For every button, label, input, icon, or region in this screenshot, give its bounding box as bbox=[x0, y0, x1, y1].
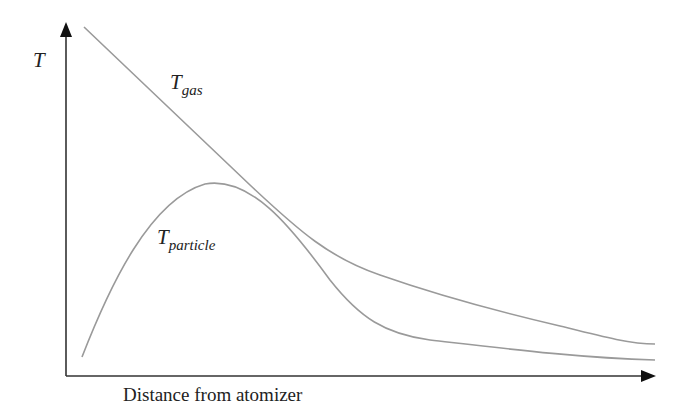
t-gas-label: Tgas bbox=[170, 70, 203, 95]
x-axis-arrow-icon bbox=[641, 370, 656, 382]
y-axis-arrow-icon bbox=[60, 22, 72, 37]
t-particle-label: Tparticle bbox=[157, 225, 215, 250]
t-gas-label-sub: gas bbox=[182, 82, 203, 98]
y-axis-label: T bbox=[33, 48, 45, 73]
x-axis-label: Distance from atomizer bbox=[123, 384, 302, 406]
t-gas-label-main: T bbox=[170, 70, 182, 94]
t-particle-label-sub: particle bbox=[169, 237, 216, 253]
t-particle-label-main: T bbox=[157, 225, 169, 249]
temperature-diagram bbox=[0, 0, 692, 418]
